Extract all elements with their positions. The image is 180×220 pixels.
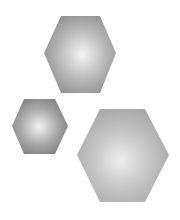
hexagon-large [77, 109, 169, 202]
hexagon-canvas [0, 0, 180, 220]
hexagon-top [44, 16, 116, 93]
hexagon-small [12, 99, 68, 154]
